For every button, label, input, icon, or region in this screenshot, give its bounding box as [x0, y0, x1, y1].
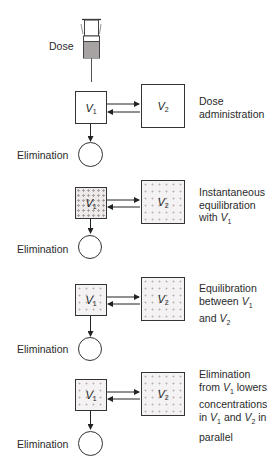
elimination-label: Elimination [17, 438, 68, 450]
elimination-circle [78, 142, 103, 167]
compartment-v1: V1 [75, 284, 107, 316]
stage-description: Dose administration [199, 95, 264, 120]
elimination-circle [78, 337, 102, 361]
elimination-label: Elimination [17, 149, 68, 161]
compartment-v1: V1 [75, 91, 107, 124]
elimination-label: Elimination [17, 243, 68, 255]
elimination-circle [78, 235, 102, 259]
compartment-v2: V2 [141, 277, 185, 321]
compartment-v2: V2 [141, 84, 185, 128]
compartment-v2: V2 [141, 180, 185, 224]
compartment-v1: V1 [75, 187, 107, 219]
elimination-label: Elimination [17, 343, 68, 355]
stage-description: Equilibration between V1 and V2 [199, 282, 257, 330]
elimination-circle [78, 431, 103, 456]
stage-description: Elimination from V1 lowers concentration… [199, 368, 267, 444]
stage-description: Instantaneous equilibration with V1 [199, 186, 265, 229]
compartment-v1: V1 [75, 379, 107, 411]
compartment-v2: V2 [141, 372, 185, 416]
